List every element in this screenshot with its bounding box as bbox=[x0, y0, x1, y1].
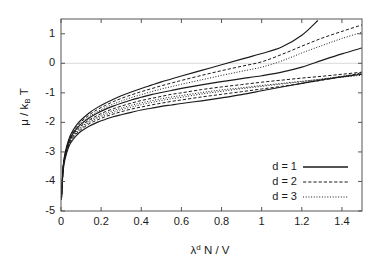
x-axis-title-text: λd N / V bbox=[191, 244, 230, 256]
x-tick-label: 0 bbox=[41, 215, 81, 227]
curve-7 bbox=[61, 74, 362, 200]
curve-6 bbox=[61, 75, 362, 199]
x-tick-label: 1 bbox=[242, 215, 282, 227]
curve-3 bbox=[61, 32, 362, 199]
y-axis-title: μ / kB T bbox=[14, 62, 32, 152]
chart-figure: 10-1-2-3-4-5 00.20.40.60.811.21.4 d = 1d… bbox=[0, 0, 385, 269]
curve-8 bbox=[61, 73, 362, 199]
x-tick-label: 0.2 bbox=[81, 215, 121, 227]
legend-item-3: d = 3 bbox=[217, 190, 297, 202]
y-axis-title-text: μ / kB T bbox=[18, 88, 30, 126]
y-tick-label: 1 bbox=[17, 27, 55, 39]
y-tick-label: -4 bbox=[17, 174, 55, 186]
legend-sample-lines bbox=[303, 167, 348, 197]
x-tick-label: 1.2 bbox=[282, 215, 322, 227]
legend-item-1: d = 1 bbox=[217, 160, 297, 172]
data-curves bbox=[61, 20, 362, 199]
x-tick-label: 1.4 bbox=[322, 215, 362, 227]
curve-2 bbox=[61, 25, 362, 199]
x-tick-label: 0.6 bbox=[161, 215, 201, 227]
curve-4 bbox=[61, 48, 362, 199]
x-tick-label: 0.8 bbox=[202, 215, 242, 227]
x-axis-title: λd N / V bbox=[150, 240, 270, 258]
curve-9 bbox=[61, 74, 362, 199]
legend-item-2: d = 2 bbox=[217, 175, 297, 187]
x-tick-label: 0.4 bbox=[121, 215, 161, 227]
curve-1 bbox=[61, 20, 317, 199]
plot-canvas bbox=[0, 0, 385, 269]
